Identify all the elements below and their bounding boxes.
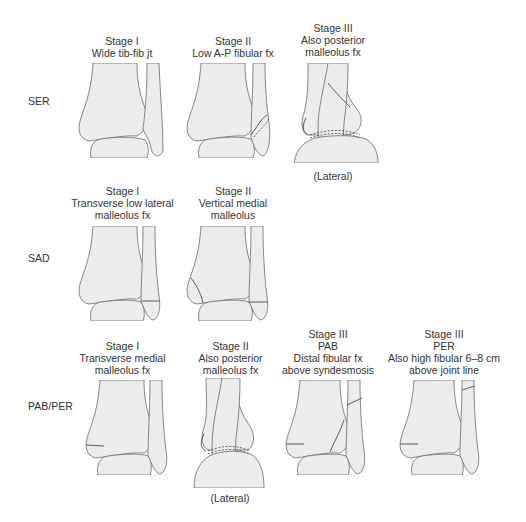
caption-line: malleolus fx (188, 364, 273, 376)
ankle-ap-transverse-medial-malleolus-fx (82, 380, 172, 475)
sublabel-lateral: (Lateral) (303, 170, 363, 182)
caption-line: Also high fibular 6–8 cm (384, 352, 504, 364)
ankle-ap-distal-fibular-fx (282, 380, 372, 475)
caption-line: PAB (278, 340, 378, 352)
caption-line: Stage II (183, 35, 283, 47)
caption-sad-stage-2: Stage II Vertical medial malleolus (188, 185, 278, 221)
caption-line: Stage II (188, 185, 278, 197)
caption-pab-per-stage-1: Stage I Transverse medial malleolus fx (75, 340, 170, 376)
row-label-ser: SER (28, 95, 50, 107)
caption-ser-stage-2: Stage II Low A-P fibular fx (183, 35, 283, 59)
caption-line: Stage III (278, 328, 378, 340)
ankle-ap-low-ap-fibular-fx (183, 63, 273, 158)
caption-line: Stage I (75, 340, 170, 352)
caption-line: Also posterior (188, 352, 273, 364)
row-label-pab-per: PAB/PER (28, 400, 73, 412)
caption-line: malleolus fx (288, 46, 378, 58)
caption-sad-stage-1: Stage I Transverse low lateral malleolus… (65, 185, 180, 221)
caption-line: Transverse low lateral (65, 197, 180, 209)
caption-line: Low A-P fibular fx (183, 47, 283, 59)
caption-ser-stage-1: Stage I Wide tib-fib jt (82, 35, 162, 59)
caption-line: Stage III (384, 328, 504, 340)
ankle-ap-transverse-lateral-malleolus-fx (75, 226, 165, 321)
caption-line: above syndesmosis (278, 364, 378, 376)
caption-pab-per-stage-2: Stage II Also posterior malleolus fx (188, 340, 273, 376)
ankle-ap-wide-tib-fib (75, 63, 165, 158)
sublabel-lateral-2: (Lateral) (200, 492, 260, 504)
caption-pab-per-stage-3-pab: Stage III PAB Distal fibular fx above sy… (278, 328, 378, 376)
caption-line: malleolus fx (65, 209, 180, 221)
caption-ser-stage-3: Stage III Also posterior malleolus fx (288, 22, 378, 58)
caption-line: above joint line (384, 364, 504, 376)
caption-line: Stage I (65, 185, 180, 197)
caption-line: Wide tib-fib jt (82, 47, 162, 59)
caption-line: Stage I (82, 35, 162, 47)
caption-line: Vertical medial (188, 197, 278, 209)
caption-line: Stage III (288, 22, 378, 34)
caption-line: Distal fibular fx (278, 352, 378, 364)
caption-pab-per-stage-3-per: Stage III PER Also high fibular 6–8 cm a… (384, 328, 504, 376)
ankle-lateral-posterior-malleolus-fx (288, 63, 383, 163)
caption-line: Also posterior (288, 34, 378, 46)
row-label-sad: SAD (28, 252, 50, 264)
caption-line: PER (384, 340, 504, 352)
ankle-ap-vertical-medial-malleolus-fx (183, 226, 273, 321)
caption-line: malleolus (188, 209, 278, 221)
ankle-ap-high-fibular-fx (396, 380, 486, 475)
caption-line: malleolus fx (75, 364, 170, 376)
ankle-lateral-posterior-malleolus-fx-2 (192, 378, 267, 488)
caption-line: Stage II (188, 340, 273, 352)
caption-line: Transverse medial (75, 352, 170, 364)
